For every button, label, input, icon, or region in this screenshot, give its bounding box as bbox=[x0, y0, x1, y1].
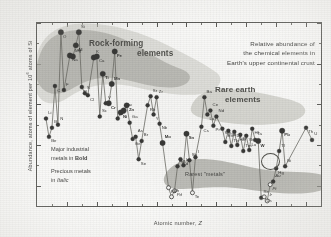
element-label-hg: Hg bbox=[278, 171, 284, 175]
data-point-ag bbox=[176, 164, 180, 168]
x-axis-label-symbol: Z bbox=[199, 220, 203, 226]
element-label-sr: Sr bbox=[153, 89, 157, 93]
plot-area: 10⁶10⁴10²110⁻²10⁻³ 102030405060708090 Li… bbox=[36, 22, 322, 207]
element-label-i: I bbox=[198, 150, 199, 154]
element-label-b: B bbox=[54, 120, 57, 124]
notation-legend: Major industrial metals in Bold Precious… bbox=[51, 145, 91, 185]
data-point-te bbox=[190, 191, 194, 195]
data-point-ce bbox=[208, 108, 212, 112]
legend-line3: Precious metals bbox=[51, 167, 91, 176]
element-label-zr: Zr bbox=[159, 90, 163, 94]
legend-line1: Major industrial bbox=[51, 145, 91, 154]
data-point-bi bbox=[283, 164, 287, 168]
rock-forming-annotation: Rock-forming elements bbox=[89, 39, 173, 60]
element-label-cd: Cd bbox=[183, 162, 189, 166]
y-tick-mark-right bbox=[317, 206, 321, 207]
element-label-la: La bbox=[210, 117, 215, 121]
data-point-tm bbox=[241, 149, 245, 153]
element-label-ga: Ga bbox=[132, 115, 138, 119]
element-label-o: O bbox=[63, 35, 66, 39]
circled-point-annotation bbox=[261, 153, 280, 170]
x-axis-label-prefix: Atomic number, bbox=[154, 220, 199, 226]
element-label-ba: Ba bbox=[207, 90, 212, 94]
element-label-s: S bbox=[87, 86, 90, 90]
element-label-pt: Pt bbox=[272, 187, 276, 191]
data-point-pr bbox=[211, 124, 215, 128]
data-point-au bbox=[271, 180, 275, 184]
data-point-sr bbox=[149, 94, 153, 98]
data-point-li bbox=[44, 117, 48, 121]
element-label-ca: Ca bbox=[99, 59, 105, 63]
element-label-re: Re bbox=[263, 190, 269, 194]
rarest-metals-annotation: Rarest "metals" bbox=[185, 171, 225, 177]
data-point-f bbox=[62, 88, 66, 92]
abundance-chart-figure: Abundance, atoms of element per 106 atom… bbox=[0, 0, 331, 237]
data-point-rh bbox=[170, 195, 174, 199]
element-label-li: Li bbox=[48, 111, 51, 115]
y-axis-label-suffix: atoms of Si bbox=[27, 40, 33, 71]
y-axis-label-prefix: Abundance, atoms of element per 10 bbox=[27, 74, 33, 171]
element-label-ir: Ir bbox=[269, 193, 272, 197]
element-label-mo: Mo bbox=[165, 135, 171, 139]
legend-line4: in Italic bbox=[51, 176, 91, 185]
rare-earth-line2: elements bbox=[225, 95, 260, 105]
data-point-y bbox=[152, 113, 156, 117]
data-point-sm bbox=[220, 127, 224, 131]
data-point-ba bbox=[202, 95, 206, 99]
x-tick-label: 70 bbox=[236, 206, 256, 207]
element-label-os: Os bbox=[266, 199, 272, 203]
element-label-c: C bbox=[57, 89, 60, 93]
element-label-y: Y bbox=[156, 117, 159, 121]
element-label-al: Al bbox=[78, 48, 82, 52]
title-line3: Earth's upper continental crust bbox=[227, 58, 315, 67]
element-label-pb: Pb bbox=[284, 133, 290, 137]
element-label-pr: Pr bbox=[216, 128, 220, 132]
element-label-pd: Pd bbox=[177, 193, 182, 197]
element-label-ti: Ti bbox=[105, 76, 109, 80]
element-label-zn: Zn bbox=[129, 108, 134, 112]
element-label-tb: Tb bbox=[234, 139, 239, 143]
element-label-si: Si bbox=[81, 25, 85, 29]
rare-earth-line1: Rare earth bbox=[215, 85, 260, 95]
legend-line2-prefix: metals in bbox=[51, 155, 75, 161]
element-label-te: Te bbox=[195, 195, 200, 199]
data-point-as bbox=[134, 135, 138, 139]
y-axis-label-exponent: 6 bbox=[25, 72, 30, 74]
element-label-be: Be bbox=[51, 139, 56, 143]
rock-forming-line2: elements bbox=[137, 49, 173, 59]
element-label-ta: Ta bbox=[257, 132, 262, 136]
x-tick-label: 40 bbox=[147, 206, 167, 207]
x-tick-label: 90 bbox=[296, 206, 316, 207]
element-label-f: F bbox=[66, 83, 69, 87]
title-line1: Relative abundance of bbox=[227, 39, 315, 48]
data-point-u bbox=[310, 138, 314, 142]
chart-title: Relative abundance of the chemical eleme… bbox=[227, 39, 315, 67]
rare-earth-annotation: Rare earth elements bbox=[215, 85, 260, 105]
x-tick-label: 60 bbox=[206, 206, 226, 207]
data-point-mn bbox=[109, 81, 114, 86]
element-label-er: Er bbox=[242, 137, 246, 141]
data-point-lu bbox=[247, 148, 251, 152]
element-label-na: Na bbox=[72, 58, 78, 62]
data-point-rb bbox=[146, 103, 150, 107]
data-point-b bbox=[50, 126, 54, 130]
element-label-sc: Sc bbox=[102, 109, 107, 113]
x-tick-label: 20 bbox=[87, 206, 107, 207]
element-label-p: P bbox=[84, 90, 87, 94]
element-label-w: W bbox=[260, 144, 264, 148]
y-tick-mark bbox=[37, 206, 41, 207]
data-point-ho bbox=[235, 143, 239, 147]
data-point-ga bbox=[128, 121, 132, 125]
data-point-tb bbox=[229, 144, 233, 148]
x-tick-label: 50 bbox=[176, 206, 196, 207]
data-point-si bbox=[76, 29, 81, 34]
data-point-co bbox=[116, 117, 120, 121]
data-point-nb bbox=[158, 122, 162, 126]
data-point-zr bbox=[155, 95, 159, 99]
x-tick-label: 10 bbox=[57, 206, 77, 207]
element-label-ge: Ge bbox=[135, 142, 141, 146]
x-tick-label: 80 bbox=[266, 206, 286, 207]
data-point-tl bbox=[277, 149, 281, 153]
element-label-in: In bbox=[186, 158, 190, 162]
element-label-br: Br bbox=[144, 133, 148, 137]
